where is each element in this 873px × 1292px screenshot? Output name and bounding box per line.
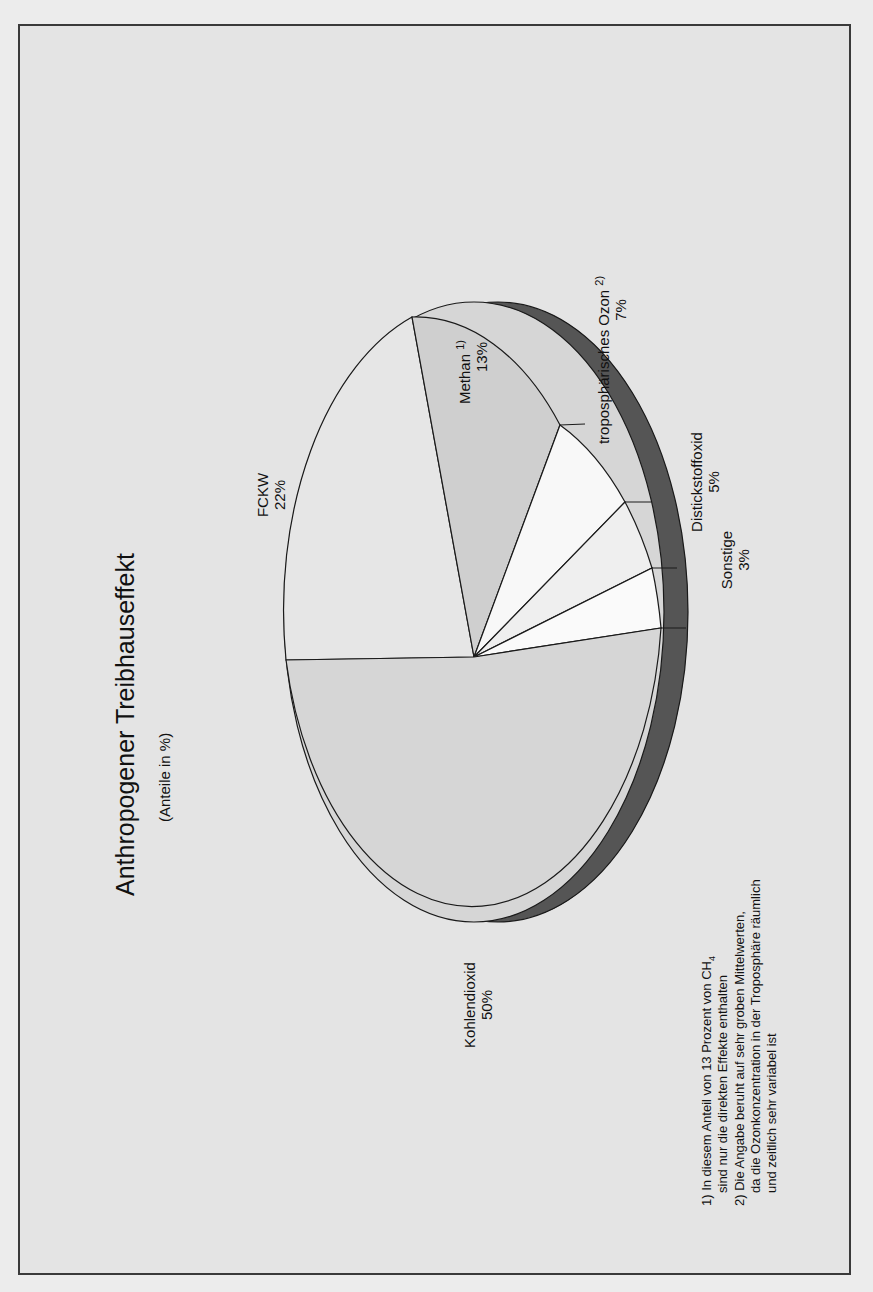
svg-text:troposphärisches Ozon 2): troposphärisches Ozon 2) [593, 276, 612, 444]
chart-subtitle: (Anteile in %) [156, 733, 173, 822]
label-ozon-pct: 7% [612, 299, 629, 321]
label-ozon: troposphärisches Ozon 2) [593, 276, 612, 444]
label-sonstige-pct: 3% [735, 549, 752, 571]
label-co2-pct: 50% [478, 990, 495, 1020]
footnote-2-line-2: da die Ozonkonzentration in der Troposph… [748, 879, 763, 1193]
label-co2-name: Kohlendioxid [461, 962, 478, 1048]
footnote-1-subscript: 4 [707, 956, 717, 961]
pie-chart: Anthropogener Treibhauseffekt (Anteile i… [0, 0, 873, 1292]
footnote-1-line-1: 1) In diesem Anteil von 13 Prozent von C… [699, 961, 714, 1206]
label-n2o-pct: 5% [705, 471, 722, 493]
label-fckw-name: FCKW [254, 472, 271, 517]
footnote-1-line-2: sind nur die direkten Effekte enthalten [715, 975, 730, 1193]
label-fckw-pct: 22% [271, 480, 288, 510]
label-methan-name: Methan [456, 354, 473, 404]
label-ozon-footnote: 2) [593, 276, 605, 286]
label-sonstige-name: Sonstige [718, 531, 735, 589]
footnote-2-line-3: und zeitlich sehr variabel ist [764, 1033, 779, 1193]
footnote-2-line-1: 2) Die Angabe beruht auf sehr groben Mit… [732, 911, 747, 1206]
label-ozon-name: troposphärisches Ozon [595, 290, 612, 444]
label-n2o-name: Distickstoffoxid [688, 432, 705, 532]
chart-title: Anthropogener Treibhauseffekt [111, 553, 139, 896]
label-methan-pct: 13% [473, 342, 490, 372]
footnotes: 1) In diesem Anteil von 13 Prozent von C… [699, 879, 779, 1206]
label-methan-footnote: 1) [454, 340, 466, 350]
